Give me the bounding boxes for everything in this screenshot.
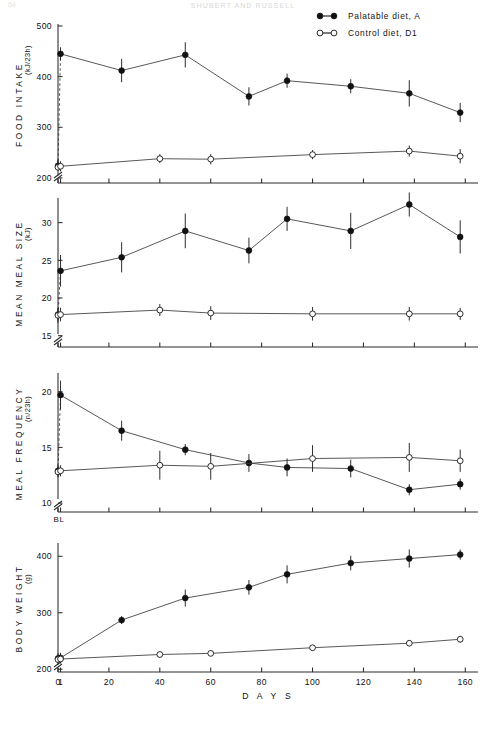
data-point-filled-circle xyxy=(348,83,354,89)
data-point-filled-circle xyxy=(457,234,463,240)
data-point-open-circle xyxy=(310,152,316,158)
data-point-open-circle xyxy=(58,312,64,318)
x-tick-label: 80 xyxy=(256,677,266,687)
data-point-filled-circle xyxy=(119,428,125,434)
baseline-label: BL xyxy=(54,515,65,524)
series-control xyxy=(55,146,463,176)
x-tick-label: 120 xyxy=(356,677,372,687)
y-tick-label: 300 xyxy=(36,122,52,132)
data-point-filled-circle xyxy=(182,228,188,234)
x-tick-label: 160 xyxy=(457,677,473,687)
legend-marker-open-circle xyxy=(331,30,337,36)
data-point-filled-circle xyxy=(119,254,125,260)
data-point-filled-circle xyxy=(348,228,354,234)
y-tick-label: 400 xyxy=(36,72,52,82)
data-point-open-circle xyxy=(406,148,412,154)
series-line xyxy=(58,639,460,659)
series-control xyxy=(55,636,463,665)
data-point-filled-circle xyxy=(182,595,188,601)
y-tick-label: 500 xyxy=(36,21,52,31)
legend-marker-filled-circle xyxy=(317,13,323,19)
data-point-open-circle xyxy=(157,652,163,658)
x-tick-label: 20 xyxy=(104,677,114,687)
y-tick-label: 30 xyxy=(42,218,52,228)
series-palatable xyxy=(55,550,463,664)
data-point-open-circle xyxy=(406,455,412,461)
y-tick-label: 25 xyxy=(42,256,52,266)
y-tick-label: 400 xyxy=(36,551,52,561)
data-point-open-circle xyxy=(310,311,316,317)
x-tick-label: 60 xyxy=(206,677,216,687)
series-control xyxy=(55,304,463,323)
data-point-open-circle xyxy=(457,153,463,159)
data-point-filled-circle xyxy=(182,447,188,453)
data-point-filled-circle xyxy=(58,51,64,57)
legend-label: Palatable diet, A xyxy=(348,11,420,21)
series-line xyxy=(58,151,460,167)
data-point-filled-circle xyxy=(348,560,354,566)
data-point-open-circle xyxy=(208,650,214,656)
y-tick-label: 200 xyxy=(36,173,52,183)
data-point-filled-circle xyxy=(119,68,125,74)
data-point-open-circle xyxy=(58,163,64,169)
data-point-filled-circle xyxy=(284,216,290,222)
data-point-open-circle xyxy=(457,311,463,317)
data-point-filled-circle xyxy=(284,78,290,84)
data-point-filled-circle xyxy=(406,90,412,96)
series-palatable xyxy=(55,192,463,320)
series-line xyxy=(58,555,460,659)
data-point-open-circle xyxy=(457,458,463,464)
data-point-filled-circle xyxy=(406,202,412,208)
data-point-filled-circle xyxy=(406,487,412,493)
data-point-open-circle xyxy=(157,307,163,313)
x-tick-label: 40 xyxy=(155,677,165,687)
series-line xyxy=(58,310,460,315)
y-axis-unit: (kJ/23h) xyxy=(23,45,32,75)
data-point-open-circle xyxy=(58,656,64,662)
data-point-open-circle xyxy=(208,156,214,162)
data-point-filled-circle xyxy=(457,110,463,116)
legend-marker-open-circle xyxy=(317,30,323,36)
data-point-filled-circle xyxy=(348,466,354,472)
data-point-open-circle xyxy=(310,456,316,462)
data-point-open-circle xyxy=(406,640,412,646)
series-line xyxy=(61,395,461,490)
y-tick-label: 20 xyxy=(42,387,52,397)
data-point-open-circle xyxy=(157,462,163,468)
data-point-open-circle xyxy=(58,468,64,474)
data-point-filled-circle xyxy=(284,465,290,471)
data-point-open-circle xyxy=(310,645,316,651)
data-point-filled-circle xyxy=(58,392,64,398)
x-tick-label: 1 xyxy=(58,677,63,687)
data-point-filled-circle xyxy=(182,52,188,58)
series-line xyxy=(58,457,460,471)
panels-container: 200300400500FOOD INTAKE(kJ/23h)15202530M… xyxy=(14,21,478,701)
legend-label: Control diet, D1 xyxy=(348,28,417,38)
data-point-filled-circle xyxy=(457,481,463,487)
panel-4-body-weight: 200300400BODY WEIGHT(g)01204060801001201… xyxy=(14,543,478,701)
data-point-open-circle xyxy=(208,310,214,316)
y-tick-label: 10 xyxy=(42,498,52,508)
series-palatable xyxy=(55,381,463,496)
y-axis-unit: (n/23h) xyxy=(23,396,32,422)
y-axis-unit: (kJ) xyxy=(23,227,32,241)
data-point-open-circle xyxy=(457,636,463,642)
data-point-filled-circle xyxy=(406,556,412,562)
legend-entry-palatable: Palatable diet, A xyxy=(317,11,420,21)
data-point-open-circle xyxy=(157,156,163,162)
series-control xyxy=(55,443,463,480)
legend: Palatable diet, AControl diet, D1 xyxy=(317,11,420,38)
y-tick-label: 20 xyxy=(42,293,52,303)
y-tick-label: 200 xyxy=(36,664,52,674)
data-point-filled-circle xyxy=(58,268,64,274)
data-point-filled-circle xyxy=(246,248,252,254)
y-axis-unit: (g) xyxy=(23,574,32,584)
figure-multipanel-lineplots: Palatable diet, AControl diet, D1 200300… xyxy=(0,0,486,735)
data-point-open-circle xyxy=(208,463,214,469)
panel-2-mean-meal-size: 15202530MEAN MEAL SIZE(kJ) xyxy=(14,192,478,347)
series-line xyxy=(61,54,461,113)
x-tick-label: 100 xyxy=(305,677,321,687)
x-tick-label: 140 xyxy=(407,677,423,687)
series-line xyxy=(61,205,461,271)
y-tick-label: 15 xyxy=(42,331,52,341)
